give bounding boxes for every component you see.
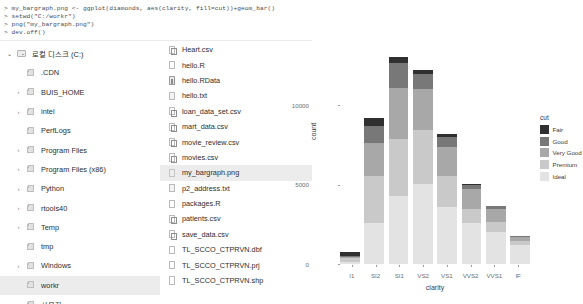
bar-segment-ideal: [437, 207, 457, 264]
tree-item-label: 로컬 디스크 (C:): [28, 48, 83, 59]
tree-item-python[interactable]: ›Python: [0, 179, 160, 198]
bar-segment-fair: [364, 118, 384, 125]
bar-segment-ideal: [340, 262, 360, 264]
r-console[interactable]: > my_bargraph.png <- ggplot(diamonds, ae…: [0, 0, 583, 40]
tree-item-label: BUIS_HOME: [37, 88, 85, 97]
bar-segment-ideal: [486, 232, 506, 264]
chevron-right-icon[interactable]: ›: [13, 186, 24, 192]
x-axis-tick-mark: [518, 265, 519, 267]
file-row[interactable]: p2_address.txt: [160, 181, 312, 196]
chart-panel: [340, 42, 530, 264]
file-row[interactable]: TL_SCCO_CTPRVN.shp: [160, 273, 312, 288]
file-name: movie_review.csv: [178, 138, 239, 147]
r-file-icon: [166, 61, 178, 69]
tree-item-intel[interactable]: ›intel: [0, 102, 160, 121]
x-axis-tick-mark: [471, 265, 472, 267]
legend-swatch: [540, 172, 549, 181]
file-row[interactable]: packages.R: [160, 196, 312, 211]
file-row[interactable]: TL_SCCO_CTPRVN.dbf: [160, 242, 312, 257]
bar-segment-ideal: [510, 245, 530, 264]
file-row[interactable]: save_data.csv: [160, 227, 312, 242]
file-row[interactable]: patients.csv: [160, 211, 312, 226]
file-name: TL_SCCO_CTPRVN.dbf: [178, 245, 262, 254]
file-row[interactable]: hello.txt: [160, 88, 312, 103]
folder-icon: [24, 263, 37, 269]
chevron-down-icon[interactable]: ⌄: [4, 51, 15, 57]
tree-item-rtools40[interactable]: ›rtools40: [0, 198, 160, 217]
chevron-right-icon[interactable]: ›: [13, 89, 24, 95]
chevron-right-icon[interactable]: ›: [13, 205, 24, 211]
tree-item-label: .CDN: [37, 68, 59, 77]
tree-item-label: intel: [37, 107, 55, 116]
generic-file-icon: [166, 276, 178, 284]
x-axis-tick-label: VVS2: [458, 272, 484, 279]
csv-file-icon: [166, 123, 178, 131]
y-axis-tick-mark: [338, 264, 340, 265]
csv-file-icon: [166, 215, 178, 223]
tree-item-buis-home[interactable]: ›BUIS_HOME: [0, 83, 160, 102]
legend-entry: Premium: [540, 159, 583, 171]
tree-item-perflogs[interactable]: PerfLogs: [0, 121, 160, 140]
chevron-right-icon[interactable]: ›: [13, 263, 24, 269]
file-row[interactable]: hello.R: [160, 57, 312, 72]
console-line: > my_bargraph.png <- ggplot(diamonds, ae…: [4, 5, 583, 13]
folder-icon: [24, 166, 37, 172]
file-list[interactable]: Heart.csvhello.Rhello.RDatahello.txtloan…: [160, 41, 312, 304]
tree-item-label: rtools40: [37, 204, 67, 213]
bar-segment-very-good: [462, 189, 482, 209]
x-axis-tick-label: VVS1: [481, 272, 507, 279]
file-name: TL_SCCO_CTPRVN.shp: [178, 276, 263, 285]
bar-I1: [340, 42, 360, 264]
r-file-icon: [166, 200, 178, 208]
tree-item-label: PerfLogs: [37, 126, 71, 135]
file-row[interactable]: movie_review.csv: [160, 134, 312, 149]
folder-icon: [24, 147, 37, 153]
tree-item--[interactable]: ›사용자: [0, 295, 160, 304]
bar-segment-very-good: [486, 209, 506, 222]
file-row[interactable]: loan_data_set.csv: [160, 104, 312, 119]
legend-label: Ideal: [549, 173, 566, 180]
file-name: hello.RData: [178, 76, 220, 85]
bar-VVS1: [486, 42, 506, 264]
file-row[interactable]: hello.RData: [160, 73, 312, 88]
folder-icon: [24, 244, 37, 250]
file-name: packages.R: [178, 199, 221, 208]
chevron-right-icon[interactable]: ›: [13, 109, 24, 115]
legend-swatch: [540, 137, 549, 146]
generic-file-icon: [166, 246, 178, 254]
bar-group: [340, 42, 530, 264]
folder-tree[interactable]: ⌄로컬 디스크 (C:).CDN›BUIS_HOME›intelPerfLogs…: [0, 41, 160, 304]
chevron-right-icon[interactable]: ›: [13, 147, 24, 153]
generic-file-icon: [166, 261, 178, 269]
file-row[interactable]: TL_SCCO_CTPRVN.prj: [160, 257, 312, 272]
file-row[interactable]: mart_data.csv: [160, 119, 312, 134]
tree-item-label: workr: [37, 281, 59, 290]
bar-VS1: [437, 42, 457, 264]
tree-item-temp[interactable]: ›Temp: [0, 218, 160, 237]
file-name: loan_data_set.csv: [178, 107, 241, 116]
tree-item-program-files-x86-[interactable]: ›Program Files (x86): [0, 160, 160, 179]
rdata-file-icon: [166, 76, 178, 84]
folder-icon: [24, 128, 37, 134]
tree-item--c-[interactable]: ⌄로컬 디스크 (C:): [0, 44, 160, 63]
file-row[interactable]: Heart.csv: [160, 42, 312, 57]
chevron-right-icon[interactable]: ›: [13, 224, 24, 230]
tree-item-workr[interactable]: workr: [0, 276, 160, 295]
tree-item-windows[interactable]: ›Windows: [0, 256, 160, 275]
x-axis-tick-mark: [376, 265, 377, 267]
x-axis-tick-label: I1: [339, 272, 365, 279]
legend-swatch: [540, 125, 549, 134]
folder-icon: [24, 282, 37, 288]
bar-IF: [510, 42, 530, 264]
file-row[interactable]: my_bargraph.png: [160, 165, 312, 180]
folder-icon: [24, 70, 37, 76]
file-row[interactable]: movies.csv: [160, 150, 312, 165]
x-axis-tick-label: IF: [505, 272, 531, 279]
tree-item-program-files[interactable]: ›Program Files: [0, 140, 160, 159]
chevron-right-icon[interactable]: ›: [13, 166, 24, 172]
tree-item--cdn[interactable]: .CDN: [0, 63, 160, 82]
drive-icon: [15, 50, 28, 57]
tree-item-tmp[interactable]: tmp: [0, 237, 160, 256]
console-line: > setwd("C:/workr"): [4, 13, 583, 21]
legend-label: Premium: [549, 161, 577, 168]
